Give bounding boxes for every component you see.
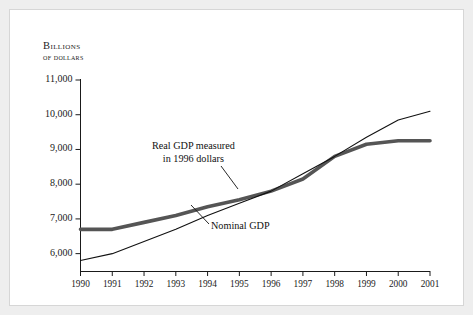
y-axis-tick-label: 10,000	[29, 108, 73, 119]
y-axis-title: Billions of dollars	[43, 40, 84, 63]
x-axis-tick-label: 1994	[190, 279, 226, 289]
x-axis-tick-label: 1996	[253, 279, 289, 289]
leader-line-real-gdp	[221, 166, 238, 189]
y-axis-tick-label: 7,000	[29, 212, 73, 223]
annotation-real-gdp-line2: in 1996 dollars	[152, 152, 235, 165]
annotation-real-gdp-line1: Real GDP measured	[152, 139, 235, 152]
x-axis-tick-label: 1999	[348, 279, 384, 289]
x-axis-tick-label: 1991	[94, 279, 130, 289]
annotation-leader-lines	[191, 166, 238, 224]
y-axis-title-line1: Billions	[43, 40, 84, 52]
figure-container: Billions of dollars 11,00010,0009,0008,0…	[0, 0, 473, 315]
y-axis-tick-label: 8,000	[29, 177, 73, 188]
annotation-nominal-gdp-line1: Nominal GDP	[211, 220, 270, 231]
series-line-real-gdp	[81, 141, 431, 230]
x-axis-tick-label: 1992	[126, 279, 162, 289]
annotation-nominal-gdp: Nominal GDP	[211, 219, 270, 232]
series-line-nominal-gdp	[81, 111, 431, 260]
x-axis-tick-label: 1997	[285, 279, 321, 289]
x-axis-tick-label: 1990	[63, 279, 99, 289]
x-axis-tick-label: 1998	[317, 279, 353, 289]
y-axis-tick-label: 9,000	[29, 142, 73, 153]
y-axis-tick-label: 11,000	[29, 73, 73, 84]
annotation-real-gdp: Real GDP measured in 1996 dollars	[152, 139, 235, 165]
x-axis-tick-label: 1995	[221, 279, 257, 289]
x-axis-tick-label: 2000	[380, 279, 416, 289]
y-axis-ticks	[76, 80, 81, 254]
y-axis-title-line2: of dollars	[43, 52, 84, 62]
data-series-lines	[81, 111, 431, 260]
x-axis-tick-label: 2001	[412, 279, 448, 289]
x-axis-tick-label: 1993	[158, 279, 194, 289]
axis-lines	[81, 79, 431, 272]
y-axis-tick-label: 6,000	[29, 247, 73, 258]
